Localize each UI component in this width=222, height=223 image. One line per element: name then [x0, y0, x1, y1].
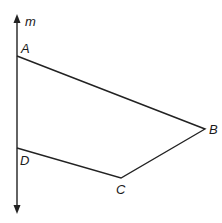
label-c: C — [116, 182, 126, 197]
line-m — [14, 14, 21, 214]
quadrilateral-abcd — [17, 56, 205, 178]
arrow-down-icon — [14, 205, 21, 214]
label-a: A — [20, 41, 30, 56]
label-d: D — [20, 153, 29, 168]
label-m: m — [25, 14, 36, 29]
label-b: B — [209, 122, 218, 137]
geometry-diagram: m A B C D — [0, 0, 222, 223]
arrow-up-icon — [14, 14, 21, 23]
